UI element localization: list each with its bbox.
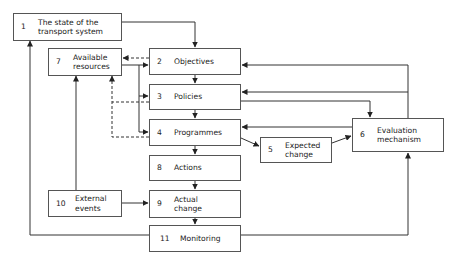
node-number: 7 xyxy=(56,57,61,67)
node-number: 8 xyxy=(157,163,162,173)
node-4-programmes: 4 Programmes xyxy=(149,119,241,146)
edge-7-to-4 xyxy=(139,96,148,132)
node-7-available-resources: 7 Available resources xyxy=(48,48,122,76)
node-label: Actions xyxy=(174,163,202,173)
node-number: 2 xyxy=(157,57,162,67)
node-1-transport-state: 1 The state of the transport system xyxy=(13,13,122,41)
node-label: Available resources xyxy=(73,53,110,72)
node-9-actual-change: 9 Actual change xyxy=(149,190,241,218)
node-label: Objectives xyxy=(174,57,214,67)
edge-5-to-6 xyxy=(332,136,351,143)
node-2-objectives: 2 Objectives xyxy=(149,48,241,75)
node-number: 6 xyxy=(360,130,365,140)
edge-4-to-5 xyxy=(241,138,259,146)
edge-11-to-6 xyxy=(241,153,408,235)
edge-7-to-3 xyxy=(139,65,148,96)
edge-1-to-2 xyxy=(122,22,195,47)
node-label: Evaluation mechanism xyxy=(377,126,421,145)
edge-3-to-6 xyxy=(241,101,370,117)
node-label: External events xyxy=(75,194,107,213)
node-number: 3 xyxy=(157,92,162,102)
node-label: Expected change xyxy=(285,141,320,160)
node-number: 10 xyxy=(56,199,66,209)
node-number: 4 xyxy=(157,128,162,138)
node-3-policies: 3 Policies xyxy=(149,84,241,110)
node-number: 1 xyxy=(21,22,26,32)
node-label: Programmes xyxy=(174,128,222,138)
node-number: 11 xyxy=(160,234,170,244)
node-label: Policies xyxy=(174,92,202,102)
node-number: 9 xyxy=(157,199,162,209)
node-number: 5 xyxy=(268,145,273,155)
edge-4-to-7-dashed xyxy=(112,76,149,137)
node-6-evaluation-mechanism: 6 Evaluation mechanism xyxy=(352,118,444,152)
node-8-actions: 8 Actions xyxy=(149,155,241,181)
node-label: Actual change xyxy=(174,195,202,214)
node-label: The state of the transport system xyxy=(38,18,103,37)
node-5-expected-change: 5 Expected change xyxy=(260,137,332,163)
node-label: Monitoring xyxy=(180,234,221,244)
node-10-external-events: 10 External events xyxy=(48,190,122,217)
node-11-monitoring: 11 Monitoring xyxy=(149,225,241,252)
